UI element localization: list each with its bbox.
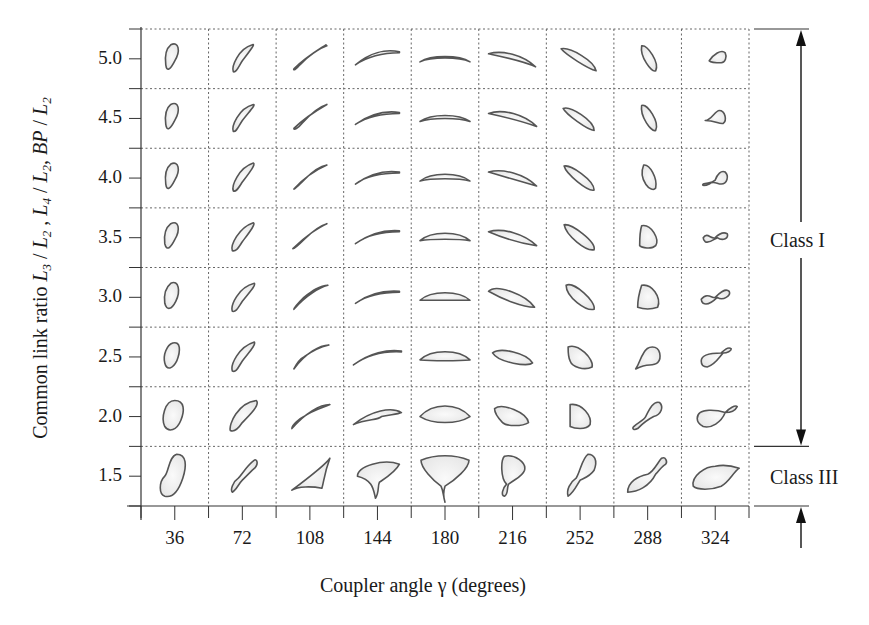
coupler-curve-r2-c0 (165, 163, 178, 188)
coupler-curve-r5-c7 (636, 347, 660, 369)
curve-path (568, 346, 592, 368)
curve-path (703, 233, 727, 242)
curve-path (693, 465, 739, 489)
curve-path (640, 226, 657, 248)
curve-path (232, 342, 255, 371)
coupler-curve-r0-c5 (489, 52, 536, 66)
coupler-curve-r5-c6 (568, 346, 592, 368)
curve-path (353, 410, 401, 425)
x-tick-label: 216 (483, 527, 543, 549)
coupler-curve-r6-c3 (353, 410, 401, 425)
curve-path (636, 347, 660, 369)
curve-path (420, 115, 470, 121)
coupler-curve-r3-c2 (293, 224, 327, 249)
coupler-curve-r7-c6 (568, 454, 596, 496)
arrow-up-icon (796, 30, 806, 46)
curve-path (292, 458, 330, 490)
curve-path (292, 405, 330, 429)
curve-path (294, 104, 327, 129)
coupler-curve-r7-c1 (232, 460, 258, 492)
coupler-curve-r3-c4 (420, 233, 470, 241)
curve-path (420, 293, 470, 301)
coupler-curve-r0-c2 (294, 45, 327, 70)
coupler-curve-r2-c4 (420, 174, 470, 181)
coupler-curve-r4-c4 (420, 293, 470, 301)
coupler-curve-r6-c1 (230, 401, 257, 432)
coupler-curve-r1-c5 (489, 112, 537, 127)
curve-path (233, 45, 253, 72)
y-tick-label: 3.0 (72, 286, 122, 306)
curve-path (165, 104, 178, 129)
curve-path (420, 406, 470, 423)
coupler-curve-r2-c3 (355, 172, 399, 185)
coupler-curve-r5-c4 (420, 352, 470, 361)
coupler-curve-r4-c7 (638, 285, 659, 309)
curve-path (357, 462, 399, 498)
coupler-curve-r5-c5 (493, 351, 533, 365)
coupler-curve-r7-c4 (421, 456, 469, 503)
x-axis-label: Coupler angle γ (degrees) (320, 574, 526, 597)
coupler-curve-r7-c2 (292, 458, 330, 490)
curve-path (566, 285, 594, 310)
arrow-down-icon (796, 429, 806, 445)
coupler-curve-r0-c7 (641, 46, 656, 71)
coupler-curve-r4-c2 (294, 285, 328, 309)
coupler-curve-r0-c1 (233, 45, 253, 72)
curve-path (489, 289, 535, 308)
coupler-curve-r4-c1 (232, 283, 255, 311)
curve-path (701, 290, 729, 304)
curve-path (489, 171, 537, 186)
coupler-curve-r6-c5 (495, 407, 529, 426)
coupler-curve-r6-c8 (697, 406, 737, 427)
arrow-up-icon (796, 507, 806, 523)
coupler-curve-r6-c6 (570, 404, 590, 428)
dotted-grid (141, 29, 749, 506)
curve-path (489, 112, 537, 127)
curve-path (293, 224, 327, 249)
coupler-curve-r5-c8 (701, 348, 731, 367)
coupler-curve-atlas-figure: Common link ratio L3 / L2 , L4 / L2, BP … (0, 0, 869, 625)
coupler-curve-r4-c5 (489, 289, 535, 308)
curve-path (232, 283, 255, 311)
coupler-curve-r1-c6 (563, 108, 594, 130)
curve-path (642, 165, 656, 189)
curve-path (294, 45, 327, 70)
curve-path (502, 456, 525, 496)
coupler-curve-r0-c8 (709, 52, 726, 63)
curve-path (489, 52, 536, 66)
coupler-curve-r1-c0 (165, 104, 178, 129)
coupler-curve-r7-c5 (502, 456, 525, 496)
curve-path (355, 51, 399, 65)
curve-path (697, 406, 737, 427)
coupler-curve-r3-c3 (355, 231, 399, 244)
x-tick-label: 36 (145, 527, 205, 549)
coupler-curve-r7-c7 (628, 458, 667, 492)
y-tick-label: 4.0 (72, 167, 122, 187)
curve-path (353, 350, 401, 364)
coupler-curve-r6-c0 (163, 401, 183, 430)
curve-path (230, 401, 257, 432)
coupler-curve-r3-c6 (564, 225, 594, 250)
curve-path (165, 44, 178, 69)
curve-path (564, 225, 594, 250)
coupler-curve-r3-c0 (165, 223, 179, 248)
coupler-curve-r4-c3 (355, 291, 399, 303)
curve-path (232, 223, 254, 251)
coupler-curve-r1-c4 (420, 115, 470, 121)
curve-path (355, 231, 399, 244)
coupler-curve-r2-c8 (703, 172, 728, 186)
curve-path (568, 454, 596, 496)
coupler-curve-r1-c7 (641, 105, 656, 130)
coupler-curve-r6-c2 (292, 405, 330, 429)
coupler-curve-r4-c6 (566, 285, 594, 310)
coupler-curve-r5-c2 (294, 345, 329, 369)
coupler-curve-r5-c1 (232, 342, 255, 371)
coupler-curves (160, 44, 739, 502)
curve-path (233, 104, 254, 131)
curve-path (703, 172, 728, 186)
curve-path (165, 283, 179, 309)
coupler-curve-r0-c0 (165, 44, 178, 69)
curve-path (160, 454, 185, 496)
y-tick-label: 2.5 (72, 346, 122, 366)
coupler-curve-r3-c7 (640, 226, 657, 248)
